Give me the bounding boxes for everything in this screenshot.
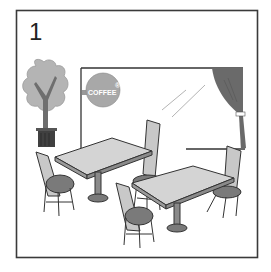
table-left [55, 138, 152, 202]
potted-tree [23, 59, 68, 147]
sign-text: COFFEE [88, 89, 117, 96]
coffee-sign: COFFEE ® [82, 73, 121, 107]
curtain [212, 68, 246, 150]
sign-trademark: ® [115, 82, 121, 89]
cafe-scene: COFFEE ® [0, 0, 271, 272]
